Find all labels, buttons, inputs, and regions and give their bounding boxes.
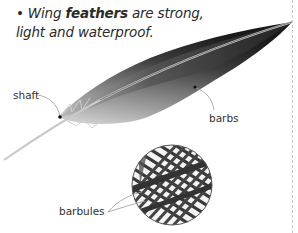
feather: [4, 22, 292, 160]
barbs-leader-line: [196, 88, 214, 110]
feather-illustration: [0, 0, 298, 233]
page-divider: [292, 0, 293, 233]
label-barbs: barbs: [209, 112, 239, 124]
barbs-marker: [193, 85, 196, 88]
shaft-marker: [58, 115, 62, 119]
label-shaft: shaft: [13, 89, 39, 101]
barbules-magnifier: [90, 110, 260, 233]
label-barbules: barbules: [59, 205, 105, 217]
shaft-leader-line: [37, 95, 60, 117]
